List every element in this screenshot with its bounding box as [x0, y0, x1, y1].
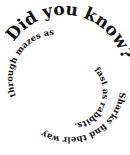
body-text-outer: Sharks find their way	[39, 92, 128, 146]
spiral-text-graphic: Did you know? Sharks find their way thro…	[0, 0, 130, 155]
